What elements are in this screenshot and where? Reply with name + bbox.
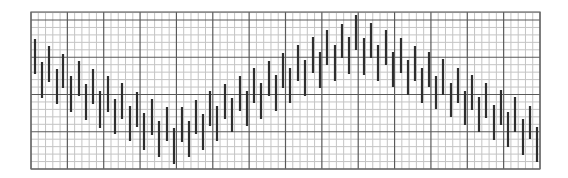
range-bar-chart	[0, 0, 568, 178]
